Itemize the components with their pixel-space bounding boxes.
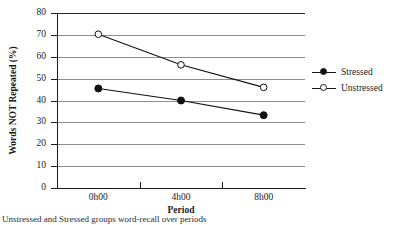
y-axis-tick-label: 40 xyxy=(6,96,46,106)
legend-item-unstressed[interactable]: Unstressed xyxy=(312,80,394,96)
legend-label-stressed: Stressed xyxy=(336,67,373,78)
y-axis-tick xyxy=(51,188,57,189)
y-axis-tick xyxy=(51,101,57,102)
legend-key-open-circle-icon xyxy=(312,82,336,94)
y-axis-tick xyxy=(51,79,57,80)
x-axis-tick xyxy=(222,182,223,188)
x-axis-tick xyxy=(140,182,141,188)
data-point-stressed-0h00 xyxy=(95,85,102,92)
x-axis-tick-label: 4h00 xyxy=(151,192,211,203)
y-axis-tick-label: 50 xyxy=(6,74,46,84)
data-point-stressed-8h00 xyxy=(260,112,267,119)
x-axis-tick-label: 8h00 xyxy=(234,192,294,203)
data-point-unstressed-8h00 xyxy=(260,84,267,91)
data-point-stressed-4h00 xyxy=(178,97,185,104)
legend-label-unstressed: Unstressed xyxy=(336,83,383,94)
y-axis-tick xyxy=(51,166,57,167)
y-axis-tick-label: 0 xyxy=(6,183,46,193)
legend: Stressed Unstressed xyxy=(312,64,394,96)
legend-item-stressed[interactable]: Stressed xyxy=(312,64,394,80)
figure-line-chart: Words NOT Repeated (%) Period Stressed U… xyxy=(0,0,394,225)
y-axis-tick-label: 30 xyxy=(6,117,46,127)
y-axis-tick-label: 10 xyxy=(6,161,46,171)
y-axis-tick-label: 20 xyxy=(6,139,46,149)
data-point-unstressed-0h00 xyxy=(95,31,102,38)
y-axis-tick-label: 70 xyxy=(6,30,46,40)
y-axis-tick-label: 80 xyxy=(6,8,46,18)
caption-text: Unstressed and Stressed groups word-reca… xyxy=(2,215,206,224)
y-axis-tick xyxy=(51,35,57,36)
y-axis-tick xyxy=(51,122,57,123)
data-point-unstressed-4h00 xyxy=(178,62,185,69)
series-line-unstressed xyxy=(98,34,263,87)
y-axis-tick xyxy=(51,13,57,14)
y-axis-tick-label: 60 xyxy=(6,52,46,62)
x-axis-tick-label: 0h00 xyxy=(68,192,128,203)
y-axis-tick xyxy=(51,57,57,58)
clipped-caption: Unstressed and Stressed groups word-reca… xyxy=(0,215,394,225)
y-axis-tick xyxy=(51,144,57,145)
legend-key-filled-circle-icon xyxy=(312,66,336,78)
